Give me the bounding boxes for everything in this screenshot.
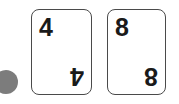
game-token[interactable] [0,70,18,94]
playing-card-1[interactable]: 4 4 [31,9,92,95]
card-1-rank-bottom-right: 4 [70,64,84,89]
card-2-rank-bottom-right: 8 [144,64,158,89]
playing-card-2[interactable]: 8 8 [107,9,166,95]
card-2-rank-top-left: 8 [115,15,129,40]
card-1-rank-top-left: 4 [39,15,53,40]
card-scene: 4 4 8 8 [0,0,179,104]
